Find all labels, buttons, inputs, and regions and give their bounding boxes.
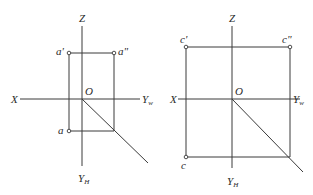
projection-diagrams: Z X O Yw YH a' a" a Z X O Yw YH c' c" c <box>0 0 313 195</box>
label-yh-left: YH <box>78 172 90 186</box>
label-c-top: c <box>181 159 186 171</box>
label-origin-left: O <box>85 85 93 97</box>
point-c-side <box>288 45 292 49</box>
point-a-top <box>67 129 71 133</box>
label-a-front: a' <box>56 45 65 57</box>
label-c-front: c' <box>180 33 188 45</box>
label-origin-right: O <box>235 85 243 97</box>
left-projection-diagram: Z X O Yw YH a' a" a <box>10 12 153 186</box>
label-c-side: c" <box>282 33 292 45</box>
point-a-side <box>112 51 116 55</box>
label-yw-left: Yw <box>142 93 153 107</box>
label-z-left: Z <box>79 12 86 24</box>
point-c-front <box>184 45 188 49</box>
diagonal-45-right <box>232 99 303 172</box>
label-yh-right: YH <box>227 175 239 189</box>
label-z-right: Z <box>229 12 236 24</box>
label-x-left: X <box>10 93 19 105</box>
right-projection-diagram: Z X O Yw YH c' c" c <box>169 12 304 189</box>
point-a-front <box>67 51 71 55</box>
label-a-side: a" <box>118 45 129 57</box>
label-x-right: X <box>169 93 178 105</box>
label-yw-right: Yw <box>293 93 304 107</box>
label-a-top: a <box>58 124 64 136</box>
